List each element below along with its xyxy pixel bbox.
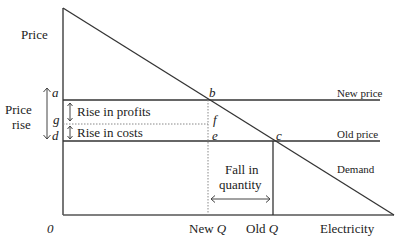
price-rise-label-line1: Price (5, 103, 32, 116)
y-axis-label: Price (21, 28, 48, 41)
price-rise-diagram: Price Electricity 0 a g d b f e c New pr… (0, 0, 408, 249)
point-a: a (52, 86, 59, 99)
point-g: g (53, 113, 60, 126)
point-f: f (213, 113, 217, 126)
x-axis-label: Electricity (320, 222, 374, 235)
rise-in-costs-label: Rise in costs (77, 126, 143, 139)
old-q-tick: Old Q (246, 222, 278, 235)
point-d: d (52, 129, 59, 142)
demand-label: Demand (337, 164, 374, 175)
price-rise-label-line2: rise (12, 118, 31, 131)
profit-rise-arrow-icon (68, 103, 73, 121)
point-b: b (209, 86, 216, 99)
cost-rise-arrow-icon (68, 126, 73, 139)
rise-in-profits-label: Rise in profits (77, 105, 151, 118)
diagram-graphics (0, 0, 408, 249)
new-q-tick: New Q (189, 222, 226, 235)
old-price-label: Old price (337, 129, 378, 140)
quantity-fall-arrow-icon (211, 196, 270, 203)
new-price-label: New price (337, 88, 383, 99)
price-rise-arrow-icon (44, 88, 51, 139)
fall-in-quantity-label-line1: Fall in (225, 163, 259, 176)
fall-in-quantity-label-line2: quantity (219, 178, 262, 191)
point-c: c (276, 129, 282, 142)
point-e: e (212, 129, 218, 142)
origin-label: 0 (47, 222, 54, 235)
